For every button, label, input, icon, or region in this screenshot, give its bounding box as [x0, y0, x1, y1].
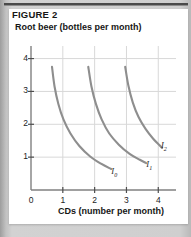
curve-label-subscript: 1	[149, 165, 152, 171]
x-tick-label-0: 0	[26, 195, 36, 205]
curve-label-I1: I1	[146, 159, 152, 171]
y-tick-label-2: 2	[19, 118, 28, 128]
indifference-curves-group	[52, 67, 162, 169]
figure-container: FIGURE 2 Root beer (bottles per month) 1…	[0, 0, 191, 237]
curve-label-subscript: 0	[114, 172, 117, 178]
curve-label-subscript: 2	[164, 146, 167, 152]
x-tick-label-2: 2	[90, 195, 100, 205]
curve-I0	[52, 67, 111, 169]
curve-label-I2: I2	[161, 140, 167, 152]
y-tick-label-3: 3	[19, 85, 28, 95]
x-tick-label-3: 3	[121, 195, 131, 205]
y-tick-label-4: 4	[19, 53, 28, 63]
y-tick-label-1: 1	[19, 151, 28, 161]
x-tick-label-4: 4	[153, 195, 163, 205]
curve-label-I0: I0	[111, 166, 117, 178]
tick-marks-group	[28, 59, 158, 193]
x-axis-title: CDs (number per month)	[58, 206, 164, 216]
curve-I2	[125, 67, 162, 148]
x-tick-label-1: 1	[58, 195, 68, 205]
